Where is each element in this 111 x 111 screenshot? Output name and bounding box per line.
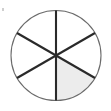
scan-speck-artifact (2, 8, 4, 11)
fraction-circle-figure: Circle divided into six equal sectors wi… (0, 0, 111, 111)
fraction-circle-graphic (0, 0, 111, 111)
